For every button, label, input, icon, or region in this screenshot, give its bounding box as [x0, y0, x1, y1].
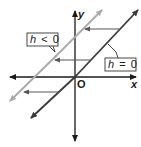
x-axis-label: x — [130, 78, 138, 90]
svg-text:h = 0: h = 0 — [108, 58, 137, 70]
label-original-op: = — [119, 58, 125, 70]
label-shifted: h < 0 — [27, 33, 59, 52]
translation-diagram: y x O h < 0 h = 0 — [0, 0, 141, 147]
label-shifted-op: < — [41, 33, 47, 45]
label-shifted-var: h — [30, 33, 36, 45]
svg-text:h < 0: h < 0 — [30, 33, 59, 45]
origin-label: O — [77, 78, 86, 90]
label-original: h = 0 — [105, 44, 137, 71]
label-original-val: 0 — [131, 58, 137, 70]
label-shifted-val: 0 — [53, 33, 59, 45]
original-line-lower — [31, 76, 76, 118]
label-original-var: h — [108, 58, 114, 70]
y-axis-label: y — [77, 8, 85, 20]
shifted-line-lower — [10, 55, 57, 101]
